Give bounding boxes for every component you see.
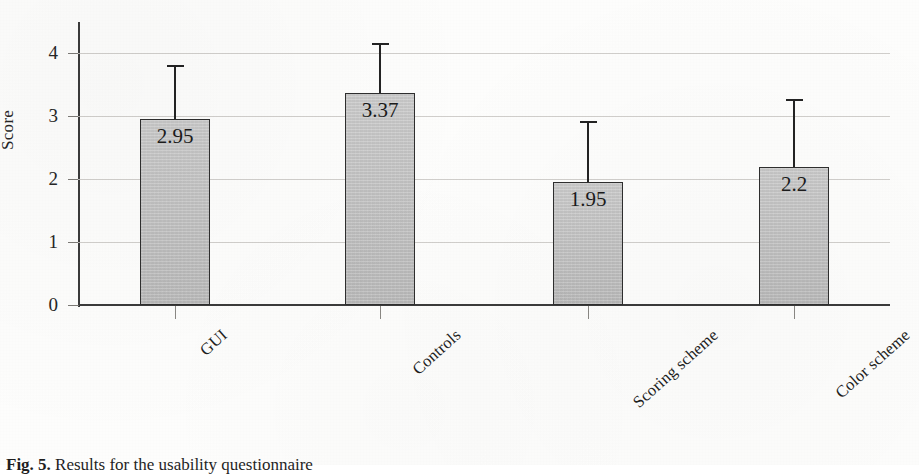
- bar: 2.2: [759, 167, 829, 305]
- bar-value-label: 1.95: [554, 188, 622, 210]
- bar: 3.37: [345, 93, 415, 305]
- x-tick-mark: [175, 306, 176, 319]
- error-bar-cap: [580, 121, 597, 123]
- x-tick-label: Color scheme: [832, 326, 913, 401]
- x-tick-label: GUI: [197, 326, 231, 359]
- plot-area: 2.953.371.952.2: [78, 20, 890, 305]
- caption-label: Fig. 5.: [6, 455, 51, 474]
- x-tick-mark: [380, 306, 381, 319]
- y-tick-label: 0: [32, 295, 58, 314]
- bar-value-label: 2.95: [141, 125, 209, 147]
- y-tick-mark: [68, 305, 79, 306]
- gridline: [78, 53, 890, 54]
- error-bar-cap: [786, 99, 803, 101]
- bar-value-label: 3.37: [346, 99, 414, 121]
- x-tick-mark: [588, 306, 589, 319]
- error-bar-stem: [587, 121, 589, 183]
- y-tick-label: 2: [32, 169, 58, 188]
- gridline: [78, 116, 890, 117]
- error-bar-cap: [372, 43, 389, 45]
- x-tick-label: Controls: [409, 326, 464, 378]
- caption-text: Results for the usability questionnaire: [55, 455, 313, 474]
- error-bar-stem: [793, 99, 795, 166]
- y-tick-label: 1: [32, 232, 58, 251]
- y-tick-label: 4: [32, 43, 58, 62]
- x-tick-label: Scoring scheme: [630, 326, 721, 411]
- figure-caption: Fig. 5. Results for the usability questi…: [6, 455, 911, 475]
- bar: 2.95: [140, 119, 210, 305]
- error-bar-cap: [167, 65, 184, 67]
- x-tick-mark: [794, 306, 795, 319]
- bar-value-label: 2.2: [760, 173, 828, 195]
- y-axis-title: Score: [0, 110, 18, 150]
- bar: 1.95: [553, 182, 623, 305]
- error-bar-stem: [379, 43, 381, 93]
- error-bar-stem: [174, 65, 176, 120]
- y-tick-label: 3: [32, 106, 58, 125]
